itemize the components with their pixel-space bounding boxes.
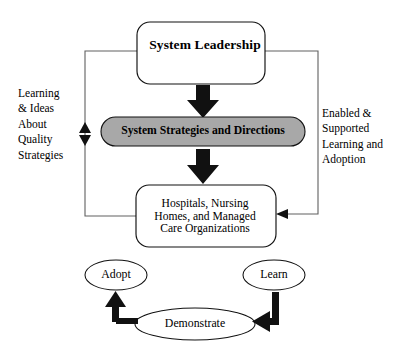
- left-feedback-caption: Learning & Ideas About Quality Strategie…: [18, 86, 88, 163]
- system-strategies-bar[interactable]: [101, 117, 305, 146]
- demonstrate-ellipse[interactable]: [135, 308, 255, 340]
- block-arrow-leadership-to-strategies: [187, 85, 219, 118]
- diagram-vector-layer: [0, 0, 408, 364]
- block-arrow-strategies-to-providers: [187, 149, 219, 184]
- elbow-arrowhead-left: [252, 311, 270, 332]
- system-leadership-box[interactable]: [137, 22, 265, 84]
- elbow-arrow-learn-to-demonstrate: [252, 292, 279, 332]
- diagram-canvas: System Leadership System Strategies and …: [0, 0, 408, 364]
- elbow-arrowhead-up: [105, 291, 126, 307]
- arrowhead-left: [276, 209, 288, 219]
- elbow-horizontal-segment: [116, 318, 138, 324]
- learn-ellipse[interactable]: [243, 260, 305, 290]
- providers-box[interactable]: [136, 185, 276, 247]
- elbow-arrow-demonstrate-to-adopt: [105, 291, 138, 324]
- right-feedback-caption: Enabled & Supported Learning and Adoptio…: [322, 106, 402, 168]
- adopt-ellipse[interactable]: [85, 260, 147, 290]
- right-loop-arrowhead: [276, 209, 288, 219]
